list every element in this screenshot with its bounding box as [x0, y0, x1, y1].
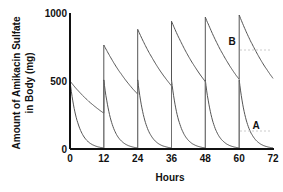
x-tick-label: 24 [132, 153, 144, 164]
series-label-a: A [252, 120, 259, 131]
y-tick-label: 500 [50, 76, 67, 87]
y-axis-title: Amount of Amikacin Sulfate in Body (mg) [11, 16, 35, 149]
y-tick-label: 1000 [45, 8, 68, 19]
x-tick-label: 36 [166, 153, 178, 164]
x-tick-labels: 0122436486072 [67, 153, 279, 164]
plot-curves [70, 15, 273, 149]
amikacin-chart: 05001000 0122436486072 Hours Amount of A… [0, 0, 283, 192]
x-tick-label: 48 [200, 153, 212, 164]
y-axis-title-line2: in Body (mg) [24, 52, 35, 113]
x-tick-label: 72 [267, 153, 279, 164]
x-tick-label: 12 [98, 153, 110, 164]
series-label-b: B [228, 36, 235, 47]
x-tick-label: 0 [67, 153, 73, 164]
x-tick-label: 60 [234, 153, 246, 164]
x-axis-title: Hours [156, 172, 185, 183]
y-tick-labels: 05001000 [45, 8, 68, 155]
y-axis-title-line1: Amount of Amikacin Sulfate [11, 16, 22, 149]
dotted-reference-lines [240, 50, 272, 131]
